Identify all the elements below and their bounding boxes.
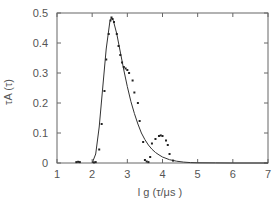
data-point xyxy=(77,161,79,163)
data-point xyxy=(125,68,127,70)
chart: 1234567 00.10.20.30.40.5 l g (τ/μs ) τA … xyxy=(0,0,279,209)
x-tick-label: 6 xyxy=(230,168,236,180)
x-tick-label: 2 xyxy=(89,168,95,180)
data-point xyxy=(116,33,118,35)
data-point xyxy=(101,123,103,125)
y-tick-label: 0.2 xyxy=(33,97,48,109)
y-tick-label: 0 xyxy=(42,157,48,169)
x-axis-label: l g (τ/μs ) xyxy=(138,186,182,198)
x-tick-label: 4 xyxy=(159,168,165,180)
data-point xyxy=(146,161,148,163)
data-point xyxy=(128,72,130,74)
data-point xyxy=(139,120,141,122)
data-point xyxy=(112,18,114,20)
y-tick-label: 0.3 xyxy=(33,67,48,79)
data-point xyxy=(149,156,151,158)
data-point xyxy=(151,143,153,145)
data-point xyxy=(154,138,156,140)
data-point xyxy=(133,92,135,94)
data-point xyxy=(142,141,144,143)
data-point xyxy=(172,160,174,162)
data-point xyxy=(95,161,97,163)
axis-ticks xyxy=(57,13,268,163)
data-point xyxy=(108,33,110,35)
data-point xyxy=(98,149,100,151)
data-point xyxy=(158,135,160,137)
y-tick-labels: 00.10.20.30.40.5 xyxy=(33,7,48,169)
data-point xyxy=(165,140,167,142)
y-tick-label: 0.5 xyxy=(33,7,48,19)
x-tick-label: 3 xyxy=(124,168,130,180)
fit-curve xyxy=(92,18,268,164)
data-point xyxy=(169,153,171,155)
data-point xyxy=(167,144,169,146)
data-point xyxy=(79,161,81,163)
data-point xyxy=(121,62,123,64)
data-point xyxy=(137,102,139,104)
x-tick-label: 1 xyxy=(54,168,60,180)
chart-svg: 1234567 00.10.20.30.40.5 l g (τ/μs ) τA … xyxy=(0,0,279,209)
data-point xyxy=(105,59,107,61)
data-point xyxy=(160,134,162,136)
data-point xyxy=(144,159,146,161)
data-point xyxy=(123,66,125,68)
data-point xyxy=(119,54,121,56)
data-point xyxy=(132,80,134,82)
y-tick-label: 0.1 xyxy=(33,127,48,139)
plot-frame xyxy=(57,13,268,163)
data-point xyxy=(103,90,105,92)
data-point xyxy=(147,161,149,163)
data-point xyxy=(113,21,115,23)
x-tick-labels: 1234567 xyxy=(54,168,271,180)
data-points xyxy=(75,17,174,164)
x-tick-label: 7 xyxy=(265,168,271,180)
data-point xyxy=(162,135,164,137)
data-point xyxy=(93,161,95,163)
data-point xyxy=(126,69,128,71)
y-tick-label: 0.4 xyxy=(33,37,48,49)
data-point xyxy=(118,45,120,47)
data-point xyxy=(75,161,77,163)
data-point xyxy=(109,20,111,22)
y-axis-label: τA (τ) xyxy=(2,79,14,105)
x-tick-label: 5 xyxy=(195,168,201,180)
